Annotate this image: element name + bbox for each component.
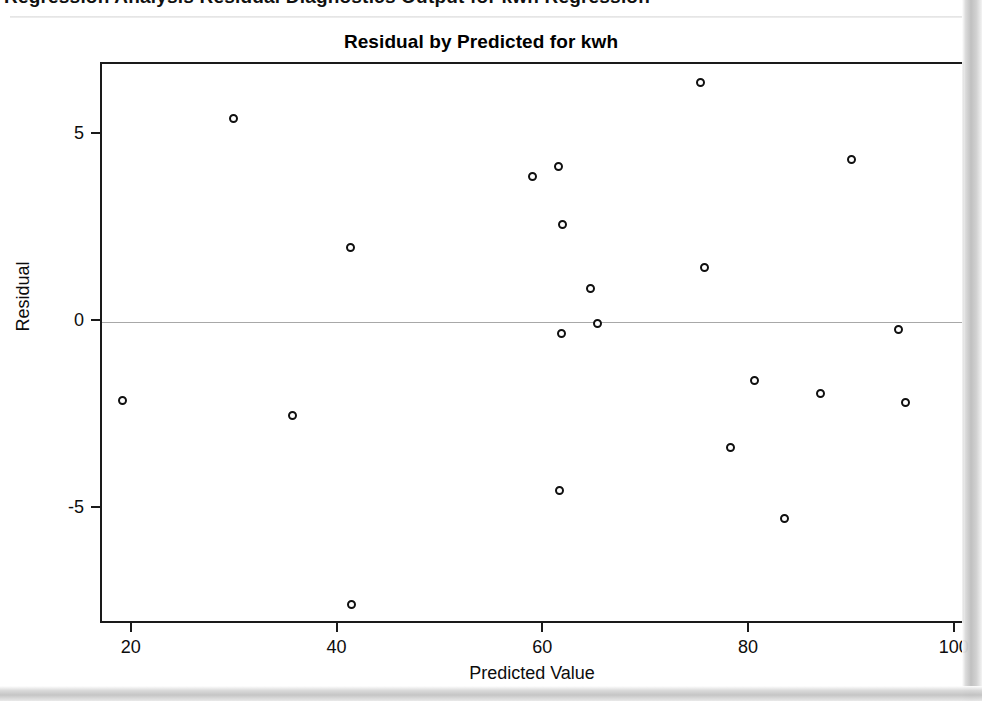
chart-title: Residual by Predicted for kwh bbox=[0, 31, 962, 53]
data-point bbox=[554, 162, 563, 171]
x-tick-mark bbox=[953, 623, 955, 632]
data-point bbox=[780, 514, 789, 523]
data-point bbox=[528, 172, 537, 181]
data-point bbox=[229, 114, 238, 123]
y-tick-label: -5 bbox=[68, 497, 84, 518]
scanned-page: Regression Analysis Residual Diagnostics… bbox=[0, 0, 982, 701]
zero-reference-line bbox=[102, 322, 962, 323]
x-tick-mark bbox=[336, 623, 338, 632]
data-point bbox=[816, 389, 825, 398]
y-tick-mark bbox=[91, 132, 100, 134]
data-point bbox=[894, 325, 903, 334]
data-point bbox=[847, 155, 856, 164]
data-point bbox=[586, 284, 595, 293]
x-axis-label: Predicted Value bbox=[100, 663, 964, 684]
x-tick-label: 60 bbox=[532, 637, 552, 658]
scan-right-edge bbox=[962, 0, 982, 701]
data-point bbox=[700, 263, 709, 272]
data-point bbox=[696, 78, 705, 87]
data-point bbox=[346, 243, 355, 252]
data-point bbox=[901, 398, 910, 407]
y-tick-label: 5 bbox=[74, 123, 84, 144]
x-tick-label: 40 bbox=[327, 637, 347, 658]
plot-frame bbox=[100, 62, 964, 623]
y-tick-mark bbox=[91, 319, 100, 321]
scan-bottom-edge bbox=[0, 686, 982, 701]
x-tick-mark bbox=[747, 623, 749, 632]
data-point bbox=[347, 600, 356, 609]
x-tick-label: 80 bbox=[738, 637, 758, 658]
data-point bbox=[726, 443, 735, 452]
y-axis-label: Residual bbox=[13, 217, 34, 377]
y-tick-mark bbox=[91, 506, 100, 508]
residual-plot: Residual by Predicted for kwh 2040608010… bbox=[0, 18, 962, 683]
x-tick-mark bbox=[130, 623, 132, 632]
data-point bbox=[558, 220, 567, 229]
data-point bbox=[288, 411, 297, 420]
data-point bbox=[118, 396, 127, 405]
y-tick-label: 0 bbox=[74, 310, 84, 331]
x-tick-label: 20 bbox=[121, 637, 141, 658]
x-tick-mark bbox=[541, 623, 543, 632]
data-point bbox=[555, 486, 564, 495]
data-point bbox=[593, 319, 602, 328]
data-point bbox=[557, 329, 566, 338]
data-point bbox=[750, 376, 759, 385]
clipped-header-text: Regression Analysis Residual Diagnostics… bbox=[0, 0, 982, 8]
